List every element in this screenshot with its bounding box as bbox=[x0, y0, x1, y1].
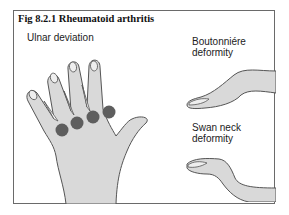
boutonniere-label-line2: deformity bbox=[192, 47, 246, 58]
boutonniere-label: Boutonniére deformity bbox=[192, 36, 246, 58]
figure-box: Fig 8.2.1 Rheumatoid arthritis Ulnar dev… bbox=[13, 10, 275, 204]
finger-boutonniere-illustration bbox=[179, 63, 276, 111]
swan-neck-label: Swan neck deformity bbox=[192, 122, 241, 144]
swan-neck-label-line2: deformity bbox=[192, 133, 241, 144]
hand-ulnar-deviation-illustration bbox=[14, 11, 184, 204]
boutonniere-label-line1: Boutonniére bbox=[192, 36, 246, 47]
swan-neck-label-line1: Swan neck bbox=[192, 122, 241, 133]
finger-swan-neck-illustration bbox=[179, 150, 276, 202]
